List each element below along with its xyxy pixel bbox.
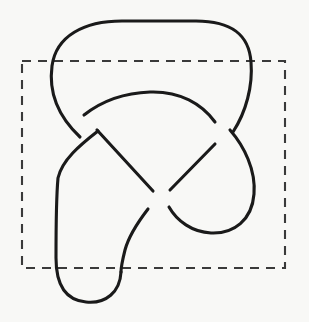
knot-segment-left-descending-strand xyxy=(56,131,121,302)
knot-diagram-svg xyxy=(0,0,309,322)
knot-segment-top-outer-loop xyxy=(51,21,251,137)
knot-segment-diagonal-center-to-right xyxy=(170,144,215,190)
knot-segment-diagonal-upper-to-center xyxy=(97,130,153,191)
knot-segment-center-s-curve xyxy=(121,209,148,272)
knot-figure-container xyxy=(0,0,309,322)
knot-segment-inner-arc-over xyxy=(84,92,215,122)
